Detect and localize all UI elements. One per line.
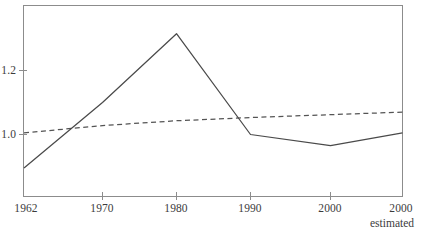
y-tick-label-upper: 1.2: [0, 64, 16, 77]
plot-frame: [24, 6, 403, 197]
x-tick-label-1970: 1970: [90, 202, 113, 215]
x-tick-label-1990: 1990: [238, 202, 261, 215]
dashed-series-line: [24, 112, 403, 133]
solid-series-line: [24, 34, 403, 168]
x-tick-label-1980: 1980: [164, 202, 187, 215]
x-tick-label-2000: 2000: [318, 202, 341, 215]
line-chart: 1.2 1.0 1962 1970 1980 1990 2000 2000 es…: [0, 0, 425, 235]
x-tick-label-2000-estimated: 2000: [389, 202, 412, 215]
plot-area: [0, 0, 425, 235]
x-axis-estimated-note: estimated: [370, 217, 414, 230]
x-tick-label-1962: 1962: [14, 202, 37, 215]
y-tick-label-lower: 1.0: [0, 128, 16, 141]
